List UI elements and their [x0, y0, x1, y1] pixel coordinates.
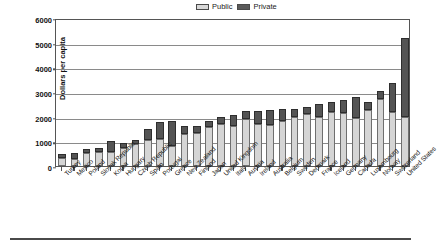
y-tick-label: 0 [48, 164, 52, 173]
bar-segment-private[interactable] [352, 97, 360, 118]
bar-segment-private[interactable] [303, 107, 311, 114]
bar-segment-private[interactable] [266, 110, 274, 125]
bar-segment-private[interactable] [217, 117, 225, 124]
legend-label-public: Public [212, 3, 232, 11]
y-tick-label: 4000 [35, 65, 52, 74]
legend-swatch-public-icon [196, 4, 209, 10]
y-tick-label: 5000 [35, 40, 52, 49]
bar-segment-private[interactable] [340, 100, 348, 113]
y-tick-label: 1000 [35, 139, 52, 148]
legend-entry-public: Public [196, 3, 232, 11]
chart-legend: Public Private [196, 1, 277, 13]
bar-group[interactable] [377, 91, 385, 166]
bar-segment-private[interactable] [193, 126, 201, 133]
x-axis-labels: TurkeyMexicoPolandSlovak RepublicKoreaHu… [55, 172, 410, 234]
bar-segment-private[interactable] [291, 109, 299, 117]
bar-group[interactable] [217, 117, 225, 166]
bar-segment-private[interactable] [315, 104, 323, 117]
bar-segment-private[interactable] [377, 91, 385, 99]
bar-group[interactable] [266, 110, 274, 166]
bar-segment-private[interactable] [254, 111, 262, 124]
legend-entry-private: Private [237, 3, 276, 11]
bar-series-container [56, 20, 409, 166]
bar-segment-public[interactable] [58, 158, 66, 166]
y-tick-label: 2000 [35, 114, 52, 123]
bar-segment-private[interactable] [242, 111, 250, 119]
bar-segment-private[interactable] [230, 115, 238, 125]
bar-group[interactable] [401, 38, 409, 166]
bar-segment-private[interactable] [279, 109, 287, 121]
legend-swatch-private-icon [237, 4, 250, 10]
bar-segment-private[interactable] [328, 102, 336, 112]
footer-divider [10, 238, 411, 240]
bar-segment-private[interactable] [389, 83, 397, 112]
bar-segment-private[interactable] [156, 122, 164, 139]
bar-segment-private[interactable] [364, 102, 372, 110]
bar-segment-private[interactable] [144, 129, 152, 140]
bar-segment-private[interactable] [107, 141, 115, 152]
x-tick-mark [61, 167, 62, 171]
bar-segment-private[interactable] [181, 126, 189, 134]
bar-segment-private[interactable] [401, 38, 409, 117]
legend-label-private: Private [253, 3, 276, 11]
y-tick-label: 3000 [35, 90, 52, 99]
bar-group[interactable] [58, 154, 66, 166]
y-tick-label: 6000 [35, 16, 52, 25]
plot-area: Dollars per capita 010002000300040005000… [55, 19, 410, 167]
